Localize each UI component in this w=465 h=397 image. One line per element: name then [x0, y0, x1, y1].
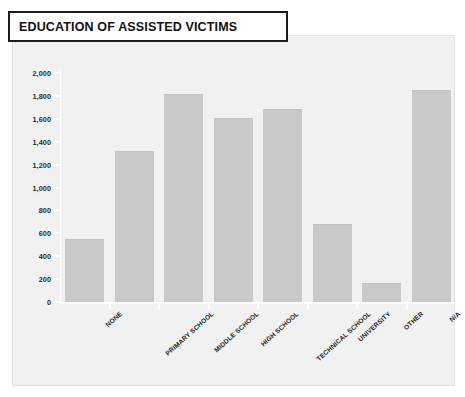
y-tick-label: 2,000	[33, 69, 52, 78]
y-tick-label: 1,200	[33, 160, 52, 169]
x-axis-label-n-a: N/A	[448, 310, 461, 323]
y-tick-label: 200	[39, 275, 51, 284]
y-tick-mark	[53, 164, 60, 166]
y-tick-label: 1,400	[33, 137, 52, 146]
page-title: EDUCATION OF ASSISTED VICTIMS	[19, 20, 237, 34]
x-axis-label-other: OTHER	[402, 310, 424, 331]
x-tick-mark	[208, 304, 210, 309]
x-tick-mark	[257, 304, 259, 309]
y-tick-mark	[53, 278, 60, 280]
bar-none[interactable]	[65, 239, 104, 302]
y-tick-label: 1,800	[33, 91, 52, 100]
x-tick-mark	[406, 304, 408, 309]
y-tick-label: 800	[39, 206, 51, 215]
y-tick-label: 1,600	[33, 114, 52, 123]
x-tick-mark	[356, 304, 358, 309]
chart-panel: 02004006008001,0001,2001,4001,6001,8002,…	[12, 35, 455, 386]
bar-middle-school[interactable]	[164, 94, 203, 302]
x-tick-mark	[307, 304, 309, 309]
x-axis-label-middle-school: MIDDLE SCHOOL	[212, 310, 259, 354]
bar-technical-school[interactable]	[263, 109, 302, 303]
y-tick-mark	[53, 301, 60, 303]
y-tick-label: 1,000	[33, 183, 52, 192]
y-tick-mark	[53, 118, 60, 120]
x-tick-mark	[158, 304, 160, 309]
x-axis-label-primary-school: PRIMARY SCHOOL	[164, 310, 215, 357]
bar-high-school[interactable]	[214, 118, 253, 302]
y-tick-mark	[53, 141, 60, 143]
y-tick-mark	[53, 72, 60, 74]
y-tick-mark	[53, 209, 60, 211]
y-tick-label: 0	[47, 298, 51, 307]
chart-title-box: EDUCATION OF ASSISTED VICTIMS	[8, 11, 288, 42]
x-axis-label-none: NONE	[104, 310, 123, 328]
chart-page: EDUCATION OF ASSISTED VICTIMS 0200400600…	[0, 0, 465, 397]
plot-area: 02004006008001,0001,2001,4001,6001,8002,…	[60, 73, 456, 302]
bar-primary-school[interactable]	[115, 151, 154, 302]
y-axis-line	[60, 70, 61, 302]
y-tick-mark	[53, 255, 60, 257]
y-tick-label: 400	[39, 252, 51, 261]
bar-n-a[interactable]	[412, 90, 451, 302]
y-tick-mark	[53, 187, 60, 189]
x-tick-mark	[109, 304, 111, 309]
y-tick-mark	[53, 232, 60, 234]
y-tick-label: 600	[39, 229, 51, 238]
y-tick-mark	[53, 95, 60, 97]
bar-other[interactable]	[362, 283, 401, 302]
x-tick-mark	[455, 304, 457, 309]
x-axis-label-high-school: HIGH SCHOOL	[260, 310, 300, 347]
bar-university[interactable]	[313, 224, 352, 302]
